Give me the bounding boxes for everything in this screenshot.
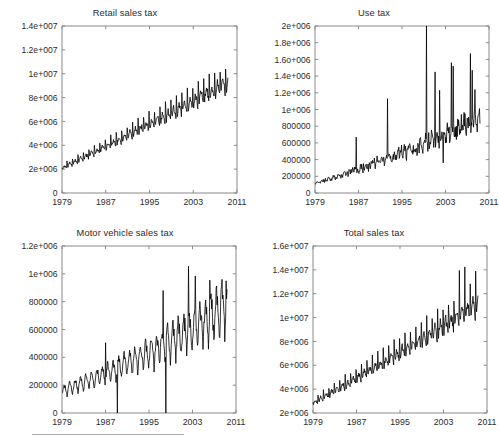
x-tick-label: 1987 [96, 197, 116, 207]
y-tick-label: 1.2e+007 [272, 289, 308, 299]
y-tick-label: 6e+006 [29, 117, 58, 127]
x-tick-label: 2011 [478, 417, 497, 427]
x-tick-label: 2011 [480, 197, 499, 207]
plot-area: 2e+0064e+0066e+0068e+0061e+0071.2e+0071.… [249, 221, 499, 443]
plot-box [315, 26, 489, 193]
y-tick-label: 1.6o+006 [274, 55, 310, 65]
y-tick-label: 600000 [282, 138, 311, 148]
y-tick-label: 600000 [29, 325, 58, 335]
plot-box [62, 26, 237, 193]
y-tick-label: 200000 [282, 171, 311, 181]
y-tick-label: 8e+006 [280, 337, 309, 347]
y-tick-label: 1.4e+007 [272, 265, 308, 275]
x-tick-label: 1979 [303, 417, 323, 427]
plot-area: 02e+0064e+0066e+0068e+0061e+0071.2e+0071… [0, 0, 250, 222]
y-tick-label: 8e+006 [29, 93, 58, 103]
x-tick-label: 2003 [183, 197, 203, 207]
y-tick-label: 1.2e+006 [274, 88, 310, 98]
y-tick-label: 4e+006 [280, 384, 309, 394]
x-tick-label: 1987 [349, 197, 369, 207]
panel-title: Motor vehicle sales tax [0, 228, 250, 238]
plot-area: 02000004000006000008000001e+0061.2e+0061… [249, 0, 499, 222]
y-tick-label: 1e+007 [29, 69, 58, 79]
y-tick-label: 6e+006 [280, 360, 309, 370]
panel-motor-vehicle-sales-tax: Motor vehicle sales tax 0200000400000600… [0, 221, 250, 443]
y-tick-label: 2e+006 [29, 164, 58, 174]
panel-use-tax: Use tax 02000004000006000008000001e+0061… [249, 0, 499, 222]
y-tick-label: 1.8e+006 [274, 38, 310, 48]
x-tick-label: 1979 [52, 417, 72, 427]
data-series-line [313, 267, 478, 405]
panel-total-sales-tax: Total sales tax 2e+0064e+0066e+0068e+006… [249, 221, 499, 443]
panel-retail-sales-tax: Retail sales tax 02e+0064e+0066e+0068e+0… [0, 0, 250, 222]
x-tick-label: 1995 [390, 417, 410, 427]
panel-title: Use tax [249, 8, 499, 18]
x-tick-label: 2003 [436, 197, 456, 207]
y-tick-label: 1.4e+006 [274, 71, 310, 81]
y-tick-label: 200000 [29, 380, 58, 390]
y-tick-label: 1e+006 [282, 105, 311, 115]
y-tick-label: 1e+006 [29, 269, 58, 279]
x-tick-label: 1987 [96, 417, 116, 427]
x-tick-label: 2003 [183, 417, 203, 427]
data-series-line [62, 69, 228, 169]
y-tick-label: 400000 [29, 352, 58, 362]
x-tick-label: 2011 [228, 197, 247, 207]
page-rule [32, 434, 184, 435]
panel-title: Total sales tax [249, 228, 499, 238]
plot-box [62, 246, 236, 413]
y-tick-label: 1e+007 [280, 313, 309, 323]
y-tick-label: 800000 [282, 121, 311, 131]
y-tick-label: 1.6e+007 [272, 241, 308, 251]
x-tick-label: 1987 [347, 417, 367, 427]
panel-title: Retail sales tax [0, 8, 250, 18]
x-tick-label: 1995 [139, 417, 159, 427]
y-tick-label: 1.2e+007 [21, 45, 57, 55]
data-series-line [63, 266, 227, 413]
y-tick-label: 1.2e+006 [21, 241, 57, 251]
x-tick-label: 1979 [52, 197, 72, 207]
x-tick-label: 1995 [140, 197, 160, 207]
figure-canvas: Retail sales tax 02e+0064e+0066e+0068e+0… [0, 0, 499, 443]
plot-area: 02000004000006000008000001e+0061.2e+0061… [0, 221, 250, 443]
y-tick-label: 400000 [282, 155, 311, 165]
y-tick-label: 1.4e+007 [21, 21, 57, 31]
y-tick-label: 4e+006 [29, 140, 58, 150]
x-tick-label: 2011 [227, 417, 246, 427]
y-tick-label: 2e+006 [282, 21, 311, 31]
x-tick-label: 1979 [305, 197, 325, 207]
data-series-line [315, 26, 480, 184]
x-tick-label: 1995 [392, 197, 412, 207]
y-tick-label: 800000 [29, 297, 58, 307]
x-tick-label: 2003 [434, 417, 454, 427]
